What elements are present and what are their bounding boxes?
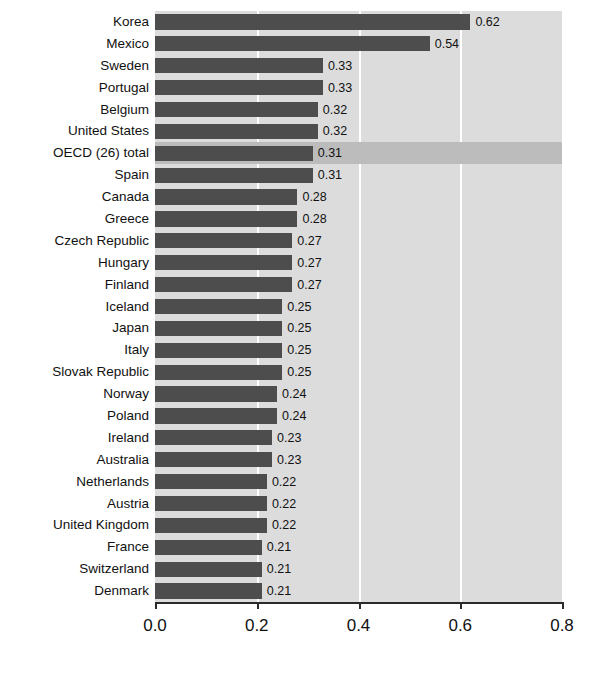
category-label: Canada (0, 190, 149, 204)
bar (155, 14, 470, 29)
category-label: Switzerland (0, 562, 149, 576)
bar-value-label: 0.22 (272, 476, 296, 489)
bar (155, 583, 262, 598)
bar-value-label: 0.24 (282, 388, 306, 401)
bar-value-label: 0.21 (267, 585, 291, 598)
category-label: Poland (0, 409, 149, 423)
bar-value-label: 0.27 (297, 235, 321, 248)
bar-value-label: 0.33 (328, 60, 352, 73)
bar (155, 430, 272, 445)
bar-value-label: 0.23 (277, 432, 301, 445)
bar (155, 168, 313, 183)
gridline-0.4 (359, 11, 361, 602)
bar-value-label: 0.25 (287, 366, 311, 379)
x-axis-tick (562, 602, 564, 609)
category-label: United States (0, 124, 149, 138)
bar (155, 299, 282, 314)
bar (155, 540, 262, 555)
bar-value-label: 0.25 (287, 322, 311, 335)
bar-value-label: 0.25 (287, 344, 311, 357)
x-axis-tick-label: 0.0 (143, 616, 167, 636)
category-label: Greece (0, 212, 149, 226)
category-label: Japan (0, 321, 149, 335)
bar (155, 146, 313, 161)
category-label: Portugal (0, 81, 149, 95)
category-label: Hungary (0, 256, 149, 270)
bar (155, 408, 277, 423)
bar-value-label: 0.62 (475, 16, 499, 29)
bar-value-label: 0.23 (277, 454, 301, 467)
bar (155, 124, 318, 139)
category-axis: KoreaMexicoSwedenPortugalBelgiumUnited S… (0, 11, 149, 602)
x-axis-tick-label: 0.2 (245, 616, 269, 636)
bar-value-label: 0.21 (267, 541, 291, 554)
category-label: Austria (0, 497, 149, 511)
x-axis-tick (359, 602, 361, 609)
bar (155, 211, 297, 226)
bar (155, 365, 282, 380)
category-label: Norway (0, 387, 149, 401)
bar-value-label: 0.27 (297, 257, 321, 270)
category-label: OECD (26) total (0, 146, 149, 160)
bar-value-label: 0.28 (302, 213, 326, 226)
x-axis-tick-label: 0.8 (550, 616, 574, 636)
category-label: Netherlands (0, 475, 149, 489)
bar (155, 496, 267, 511)
category-label: Ireland (0, 431, 149, 445)
bar (155, 36, 430, 51)
category-label: Czech Republic (0, 234, 149, 248)
bar-value-label: 0.28 (302, 191, 326, 204)
category-label: Belgium (0, 103, 149, 117)
bar (155, 474, 267, 489)
bar-value-label: 0.32 (323, 104, 347, 117)
bar-value-label: 0.25 (287, 301, 311, 314)
chart-title-clipped (0, 0, 591, 9)
gridline-0.6 (460, 11, 462, 602)
bar (155, 80, 323, 95)
bar-value-label: 0.54 (435, 38, 459, 51)
bar (155, 343, 282, 358)
bar-value-label: 0.22 (272, 498, 296, 511)
category-label: Korea (0, 15, 149, 29)
category-label: United Kingdom (0, 518, 149, 532)
category-label: Finland (0, 278, 149, 292)
category-label: Denmark (0, 584, 149, 598)
bar-value-label: 0.32 (323, 125, 347, 138)
x-axis-tick (257, 602, 259, 609)
category-label: Italy (0, 343, 149, 357)
bar-value-label: 0.31 (318, 169, 342, 182)
category-label: Mexico (0, 37, 149, 51)
bar-value-label: 0.31 (318, 147, 342, 160)
bar (155, 321, 282, 336)
bar (155, 518, 267, 533)
x-axis-tick (460, 602, 462, 609)
bar (155, 562, 262, 577)
bar-value-label: 0.27 (297, 279, 321, 292)
category-label: France (0, 540, 149, 554)
bar (155, 386, 277, 401)
bar (155, 58, 323, 73)
category-label: Slovak Republic (0, 365, 149, 379)
x-axis-tick-label: 0.6 (448, 616, 472, 636)
bar-value-label: 0.22 (272, 519, 296, 532)
bar-chart: KoreaMexicoSwedenPortugalBelgiumUnited S… (0, 0, 591, 680)
bar-value-label: 0.21 (267, 563, 291, 576)
bar (155, 255, 292, 270)
x-axis-tick (155, 602, 157, 609)
bar-value-label: 0.33 (328, 82, 352, 95)
bar (155, 452, 272, 467)
x-axis-tick-label: 0.4 (347, 616, 371, 636)
bar-value-label: 0.24 (282, 410, 306, 423)
category-label: Spain (0, 168, 149, 182)
category-label: Sweden (0, 59, 149, 73)
bar (155, 102, 318, 117)
bar (155, 233, 292, 248)
bar (155, 189, 297, 204)
plot-area: 0.620.540.330.330.320.320.310.310.280.28… (155, 11, 562, 602)
bar (155, 277, 292, 292)
category-label: Iceland (0, 300, 149, 314)
category-label: Australia (0, 453, 149, 467)
